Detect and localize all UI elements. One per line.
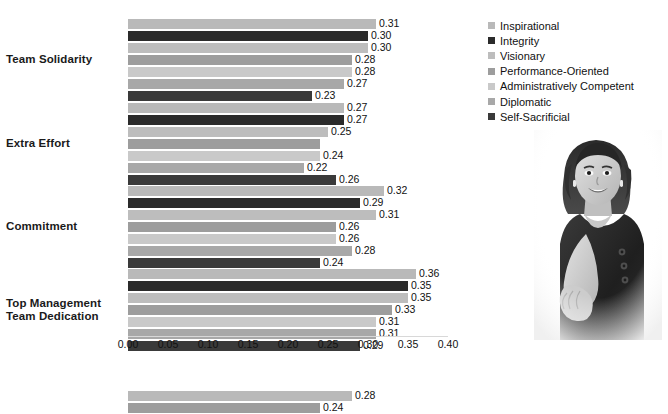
legend-item[interactable]: Diplomatic <box>488 94 664 109</box>
bar-value-label: 0.27 <box>347 113 367 125</box>
bar-row: 0.31 <box>128 209 548 221</box>
bar-value-label: 0.30 <box>371 41 391 53</box>
bar-value-label: 0.28 <box>355 53 375 65</box>
bar <box>128 269 416 279</box>
bar-row: 0.31 <box>128 18 548 30</box>
bar-value-label: 0.26 <box>339 232 359 244</box>
x-axis-tick: 0.15 <box>238 338 258 350</box>
bar-value-label: 0.35 <box>411 291 431 303</box>
legend-swatch-icon <box>488 68 495 75</box>
bar-value-label: 0.28 <box>355 389 375 401</box>
bar-row: 0.28 <box>128 54 548 66</box>
legend-label: Visionary <box>500 50 545 62</box>
bar-value-label: 0.24 <box>323 149 343 161</box>
legend-item[interactable]: Inspirational <box>488 18 664 33</box>
bar-value-label: 0.33 <box>395 303 415 315</box>
bar-value-label: 0.28 <box>355 244 375 256</box>
bar <box>128 234 336 244</box>
bar <box>128 115 344 125</box>
bar <box>128 79 344 89</box>
legend-swatch-icon <box>488 37 495 44</box>
bar-value-label: 0.27 <box>347 77 367 89</box>
legend-swatch-icon <box>488 113 495 120</box>
bar <box>128 317 376 327</box>
bar-row: 0.26 <box>128 221 548 233</box>
x-axis-tick: 0.05 <box>158 338 178 350</box>
bar-row: 0.31 <box>128 316 548 328</box>
bar-group: 0.270.270.250.240.220.26 <box>128 102 548 186</box>
bar <box>128 305 392 315</box>
bar <box>128 403 320 413</box>
x-axis-tick: 0.20 <box>278 338 298 350</box>
legend-label: Self-Sacrificial <box>500 111 570 123</box>
bar-row: 0.30 <box>128 30 548 42</box>
bar-group: 0.320.290.310.260.260.280.24 <box>128 185 548 269</box>
category-label: Commitment <box>6 220 126 234</box>
legend-label: Inspirational <box>500 20 559 32</box>
bar-row: 0.28 <box>128 66 548 78</box>
bar-value-label: 0.23 <box>315 89 335 101</box>
x-axis-tick: 0.35 <box>398 338 418 350</box>
bar-value-label: 0.30 <box>371 29 391 41</box>
legend-label: Diplomatic <box>500 96 551 108</box>
legend-item[interactable]: Performance-Oriented <box>488 64 664 79</box>
bar-row: 0.27 <box>128 78 548 90</box>
legend-item[interactable]: Visionary <box>488 48 664 63</box>
category-label-line: Team Solidarity <box>6 53 126 67</box>
bar-value-label: 0.24 <box>323 256 343 268</box>
bar-row: 0.25 <box>128 126 548 138</box>
bar <box>128 246 352 256</box>
bar-row: 0.32 <box>128 185 548 197</box>
legend-item[interactable]: Integrity <box>488 33 664 48</box>
bar <box>128 258 320 268</box>
bar-row: 0.36 <box>128 268 548 280</box>
bar-value-label: 0.22 <box>307 161 327 173</box>
bar-row: 0.23 <box>128 90 548 102</box>
bar-row: 0.35 <box>128 292 548 304</box>
bar <box>128 163 304 173</box>
bar-value-label: 0.35 <box>411 279 431 291</box>
category-label-line: Commitment <box>6 220 126 234</box>
bar <box>128 281 408 291</box>
bar <box>128 55 352 65</box>
bar <box>128 175 336 185</box>
bar-row: 0.22 <box>128 162 548 174</box>
category-label-line: Extra Effort <box>6 137 126 151</box>
bar-value-label: 0.31 <box>379 208 399 220</box>
legend-label: Performance-Oriented <box>500 65 609 77</box>
bar-value-label: 0.24 <box>323 401 343 413</box>
bar-row: 0.27 <box>128 102 548 114</box>
legend-swatch-icon <box>488 98 495 105</box>
bar-row: 0.35 <box>128 280 548 292</box>
category-label-line: Top Management <box>6 297 126 311</box>
category-label: Team Solidarity <box>6 53 126 67</box>
bar <box>128 91 312 101</box>
bar <box>128 391 352 401</box>
bar <box>128 151 320 161</box>
legend-swatch-icon <box>488 83 495 90</box>
legend-item[interactable]: Administratively Competent <box>488 79 664 94</box>
bar-row: 0.24 <box>128 150 548 162</box>
bar-value-label: 0.27 <box>347 101 367 113</box>
bar <box>128 139 320 149</box>
legend-label: Administratively Competent <box>500 80 634 92</box>
bar-row: 0.26 <box>128 233 548 245</box>
bar-value-label: 0.28 <box>355 65 375 77</box>
x-axis-tick: 0.00 <box>118 338 138 350</box>
bar <box>128 186 384 196</box>
bar <box>128 198 360 208</box>
category-label: Top ManagementTeam Dedication <box>6 297 126 324</box>
x-axis-ticks: 0.000.050.100.150.200.250.300.350.40 <box>0 338 668 360</box>
bar-value-label: 0.25 <box>331 125 351 137</box>
legend-swatch-icon <box>488 52 495 59</box>
x-axis-tick: 0.25 <box>318 338 338 350</box>
legend-item[interactable]: Self-Sacrificial <box>488 109 664 124</box>
bar-value-label: 0.31 <box>379 17 399 29</box>
bar <box>128 293 408 303</box>
x-axis-tick: 0.40 <box>438 338 458 350</box>
category-label: Extra Effort <box>6 137 126 151</box>
bar <box>128 210 376 220</box>
bar-group: 0.310.300.300.280.280.270.23 <box>128 18 548 102</box>
x-axis-line <box>128 336 448 337</box>
category-label-line: Team Dedication <box>6 310 126 324</box>
